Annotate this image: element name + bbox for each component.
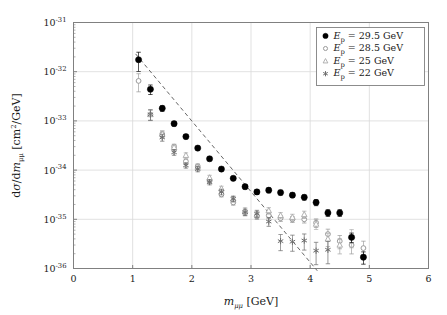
marker-filled-circle <box>242 184 248 190</box>
marker-filled-circle <box>360 254 366 260</box>
marker-open-circle <box>323 46 327 50</box>
marker-filled-circle <box>195 145 201 151</box>
marker-filled-circle <box>323 33 328 38</box>
x-tick-label: 0 <box>70 273 76 284</box>
marker-filled-circle <box>135 57 141 63</box>
x-tick-label: 2 <box>189 273 195 284</box>
marker-filled-circle <box>325 210 331 216</box>
marker-filled-circle <box>183 133 189 139</box>
marker-filled-circle <box>159 105 165 111</box>
x-axis-label: mμμ [GeV] <box>224 295 279 310</box>
marker-filled-circle <box>313 199 319 205</box>
marker-open-circle <box>136 79 141 84</box>
marker-filled-circle <box>254 189 260 195</box>
marker-filled-circle <box>266 187 272 193</box>
marker-filled-circle <box>171 121 177 127</box>
marker-filled-circle <box>289 192 295 198</box>
figure-container: 0123456 10-3110-3210-3310-3410-3510-36 E… <box>0 0 447 315</box>
marker-filled-circle <box>230 175 236 181</box>
y-axis-label: dσ/dmμμ [cm2/GeV] <box>10 93 25 198</box>
x-tick-label: 1 <box>130 273 136 284</box>
scatter-plot: 0123456 10-3110-3210-3310-3410-3510-36 E… <box>0 0 447 315</box>
marker-filled-circle <box>337 210 343 216</box>
legend: Ep = 29.5 GeVEp = 28.5 GeVEp = 25 GeVEp … <box>317 28 425 86</box>
marker-filled-circle <box>277 189 283 195</box>
marker-open-circle <box>361 246 366 251</box>
x-tick-label: 5 <box>366 273 372 284</box>
marker-filled-circle <box>147 86 153 92</box>
marker-filled-circle <box>206 156 212 162</box>
y-axis-label-group: dσ/dmμμ [cm2/GeV] <box>10 93 25 198</box>
marker-filled-circle <box>348 234 354 240</box>
x-tick-label: 6 <box>425 273 431 284</box>
marker-filled-circle <box>218 166 224 172</box>
x-tick-label: 4 <box>307 273 313 284</box>
x-tick-label: 3 <box>248 273 254 284</box>
marker-filled-circle <box>301 194 307 200</box>
